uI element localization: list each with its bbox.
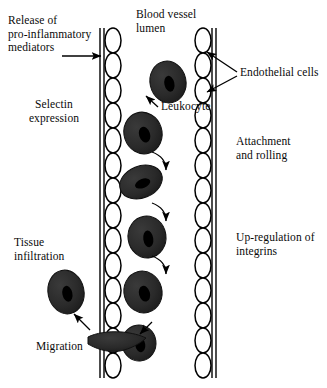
label-tissue: Tissue infiltration <box>14 236 64 263</box>
leukocyte-infiltrated-tissue <box>44 267 88 318</box>
endothelial-cell <box>195 153 211 178</box>
endothelial-cell <box>105 153 121 178</box>
endothelial-cell <box>105 353 121 378</box>
endothelial-cell <box>105 78 121 103</box>
leukocyte-arrested <box>119 267 167 317</box>
endothelial-cell <box>195 328 211 353</box>
leukocyte-rolling-flattened <box>115 159 168 205</box>
endothelial-cell <box>105 128 121 153</box>
label-leukocyte: Leukocyte <box>161 100 210 114</box>
label-release: Release of pro-inflammatory mediators <box>8 14 91 55</box>
endothelial-cell <box>105 253 121 278</box>
endothelial-cell <box>195 278 211 303</box>
endothelial-cell <box>105 303 121 328</box>
endothelial-cell <box>105 178 121 203</box>
endothelial-cell <box>105 103 121 128</box>
label-selectin: Selectin expression <box>6 98 102 125</box>
endothelial-cell <box>105 203 121 228</box>
diagram-svg <box>0 0 327 388</box>
endothelial-cell <box>195 253 211 278</box>
vessel-wall-left <box>100 28 121 378</box>
endothelial-cell <box>105 228 121 253</box>
endothelial-cell <box>195 178 211 203</box>
vessel-wall-right <box>195 28 216 378</box>
endothelial-cell <box>195 228 211 253</box>
tissue-pointer <box>74 314 90 330</box>
label-endothelial: Endothelial cells <box>240 66 319 80</box>
endothelial-cell <box>195 53 211 78</box>
label-migration: Migration <box>36 340 83 354</box>
endothelial-cell <box>195 303 211 328</box>
endothelial-cell <box>105 28 121 53</box>
roll-arrow-3 <box>152 256 166 274</box>
leukocyte-free-flowing <box>146 58 190 107</box>
label-lumen: Blood vessel lumen <box>136 8 196 35</box>
figure-canvas: Release of pro-inflammatory mediators Se… <box>0 0 327 388</box>
endothelial-cell <box>195 203 211 228</box>
label-upregulation: Up-regulation of integrins <box>236 231 315 258</box>
endothelial-cell <box>195 353 211 378</box>
endothelial-cell <box>195 28 211 53</box>
leukocyte-attaching <box>125 214 168 261</box>
endothelial-cell <box>195 128 211 153</box>
endothelial-cell <box>105 53 121 78</box>
label-attachment: Attachment and rolling <box>236 135 291 162</box>
leukocyte-approaching <box>118 107 167 159</box>
endothelial-cell <box>105 278 121 303</box>
